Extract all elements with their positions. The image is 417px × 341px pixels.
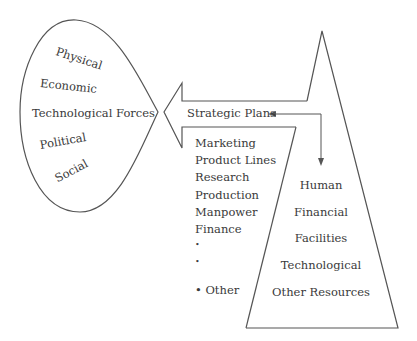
resource-other: Other Resources: [272, 287, 370, 299]
resource-facilities: Facilities: [295, 233, 348, 245]
strategic-plans-label: Strategic Plans: [187, 108, 276, 120]
feedback-connector: [268, 111, 324, 166]
function-manpower: Manpower: [195, 207, 257, 219]
resource-human: Human: [300, 180, 343, 192]
function-production: Production: [195, 190, 259, 202]
resource-technological: Technological: [281, 260, 361, 272]
force-technological: Technological Forces: [32, 108, 155, 120]
arrowhead-down-icon: [318, 158, 324, 166]
function-ellipsis-1: •: [195, 241, 200, 249]
function-finance: Finance: [195, 224, 242, 236]
resource-financial: Financial: [294, 207, 348, 219]
function-other: • Other: [195, 285, 239, 297]
function-product-lines: Product Lines: [195, 155, 276, 167]
function-ellipsis-2: •: [195, 258, 200, 266]
function-research: Research: [195, 172, 249, 184]
function-marketing: Marketing: [195, 138, 256, 150]
